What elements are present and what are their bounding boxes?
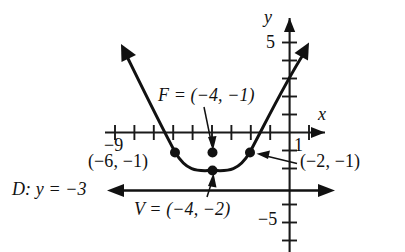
x-axis-label: x: [318, 105, 326, 123]
left-point-label: (−6, −1): [88, 152, 148, 170]
y-axis-label: y: [264, 8, 272, 26]
directrix-label: D: y = −3: [12, 180, 87, 198]
point-vertex: [208, 166, 218, 176]
y-tick-label-5: 5: [266, 33, 275, 51]
y-axis-arrowhead: [284, 18, 295, 32]
vertex-label: V = (−4, −2): [134, 200, 230, 218]
directrix-left-arrowhead: [107, 184, 124, 197]
right-point-label: (−2, −1): [300, 152, 360, 170]
directrix-right-arrowhead: [318, 184, 335, 197]
right-point-leader-arrowhead: [257, 151, 271, 160]
focus-label: F = (−4, −1): [158, 86, 255, 104]
parabola-figure: y x 5 −5 −9 1 F = (−4, −1) (−6, −1) (−2,…: [0, 0, 405, 252]
point-left: [170, 148, 180, 158]
y-tick-label-neg5: −5: [258, 210, 277, 228]
point-right: [245, 148, 255, 158]
directrix-line-group: [107, 184, 335, 197]
x-axis-arrowhead: [311, 127, 325, 138]
